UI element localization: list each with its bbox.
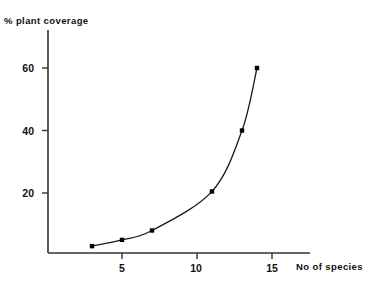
chart-axes	[48, 30, 310, 253]
y-tick-label-40: 40	[6, 125, 34, 137]
chart-series	[90, 66, 259, 249]
series-curve	[92, 68, 257, 246]
y-axis-title: % plant coverage	[4, 15, 89, 26]
chart-container: % plant coverage No of species 20 40 60 …	[0, 0, 374, 292]
x-tick-label-10: 10	[183, 262, 209, 274]
y-tick-label-20: 20	[6, 187, 34, 199]
x-tick-label-5: 5	[109, 262, 135, 274]
y-tick-label-60: 60	[6, 62, 34, 74]
x-axis-title: No of species	[296, 261, 363, 272]
data-point-marker	[120, 238, 124, 242]
chart-plot-area	[0, 0, 374, 292]
data-point-marker	[210, 189, 214, 193]
x-tick-label-15: 15	[259, 262, 285, 274]
data-point-marker	[90, 244, 94, 248]
chart-tick-marks	[42, 68, 272, 259]
data-point-marker	[150, 228, 154, 232]
data-point-marker	[255, 66, 259, 70]
data-point-marker	[240, 128, 244, 132]
